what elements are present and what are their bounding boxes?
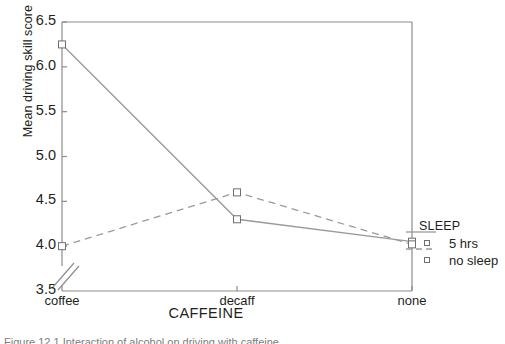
series-line: [62, 44, 412, 241]
legend: SLEEP 5 hrsno sleep: [419, 219, 505, 269]
legend-title: SLEEP: [419, 219, 505, 233]
data-point-marker: [59, 243, 66, 250]
data-point-marker: [234, 216, 241, 223]
legend-label: no sleep: [441, 253, 498, 268]
legend-marker-icon: [419, 235, 441, 252]
legend-marker-icon: [419, 252, 441, 269]
plot-area: [0, 0, 505, 344]
legend-item: no sleep: [419, 252, 505, 269]
data-point-marker: [234, 189, 241, 196]
chart-figure: Mean driving skill score 3.54.04.55.05.5…: [0, 0, 505, 344]
legend-label: 5 hrs: [441, 236, 478, 251]
data-point-marker: [409, 241, 416, 248]
figure-caption: Figure 12.1 Interaction of alcohol on dr…: [4, 336, 304, 344]
legend-item: 5 hrs: [419, 235, 505, 252]
data-point-marker: [59, 41, 66, 48]
